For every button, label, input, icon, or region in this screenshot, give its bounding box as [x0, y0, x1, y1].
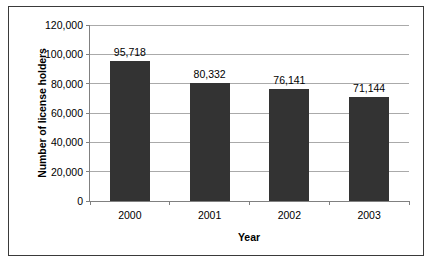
y-axis-tick-label: 80,000	[51, 78, 83, 90]
y-axis-tick-label: 60,000	[51, 107, 83, 119]
bar	[190, 83, 230, 201]
x-axis-tick-mark	[329, 201, 330, 205]
bar	[269, 89, 309, 201]
x-axis-tick-label: 2000	[118, 209, 141, 221]
y-axis-tick-label: 0	[77, 195, 83, 207]
bar-value-label: 76,141	[273, 74, 305, 86]
x-axis-tick-mark	[169, 201, 170, 205]
bar-value-label: 95,718	[114, 46, 146, 58]
bar-group: 76,1412002	[250, 25, 330, 201]
x-axis-tick-label: 2002	[278, 209, 301, 221]
bar	[349, 97, 389, 201]
bar-group: 71,1442003	[329, 25, 409, 201]
y-axis-tick-label: 40,000	[51, 136, 83, 148]
x-axis-title: Year	[89, 231, 409, 243]
y-axis-tick-label: 120,000	[45, 19, 83, 31]
chart-frame: Number of license holders 020,00040,0006…	[8, 6, 424, 256]
bar-group: 80,3322001	[170, 25, 250, 201]
y-axis-tick-label: 100,000	[45, 48, 83, 60]
plot-area: 020,00040,00060,00080,000100,000120,000 …	[89, 25, 409, 202]
x-axis-tick-label: 2001	[198, 209, 221, 221]
y-axis-tick-label: 20,000	[51, 166, 83, 178]
bar	[110, 61, 150, 201]
x-axis-tick-mark	[249, 201, 250, 205]
bar-value-label: 71,144	[353, 82, 385, 94]
x-axis-tick-mark	[90, 201, 91, 205]
x-axis-tick-mark	[409, 201, 410, 205]
x-axis-tick-label: 2003	[357, 209, 380, 221]
bar-group: 95,7182000	[90, 25, 170, 201]
bar-value-label: 80,332	[194, 68, 226, 80]
